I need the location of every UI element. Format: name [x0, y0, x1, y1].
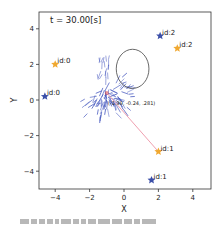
caption-text-block	[134, 219, 140, 224]
caption-text-block	[88, 219, 96, 224]
y-tick-label: 0	[30, 97, 34, 105]
x-axis-label: X	[121, 205, 127, 214]
caption-text-block	[73, 219, 79, 224]
x-tick-label: −2	[84, 194, 94, 202]
trajectory-plot: id:0id:1id:2id:0id:1id:2 −4−2024 −4−2024…	[0, 0, 223, 226]
caption-text-block	[47, 219, 53, 224]
range-ellipse	[116, 49, 149, 88]
marker-label: id:1	[160, 145, 173, 153]
caption-text-block	[39, 219, 45, 224]
marker-label: id:0	[57, 57, 70, 65]
y-tick-label: 4	[30, 25, 35, 33]
swarm-arrows	[80, 55, 135, 123]
caption-text-block	[31, 219, 37, 224]
caption-text-block	[55, 219, 59, 224]
y-axis-ticks: −4−2024	[24, 25, 39, 175]
marker-label: id:2	[179, 41, 192, 49]
marker-label: id:2	[162, 29, 175, 37]
x-tick-label: −4	[50, 194, 61, 202]
x-axis-ticks: −4−2024	[50, 189, 196, 202]
caption-text-block	[124, 219, 132, 224]
caption-text-block	[112, 219, 122, 224]
caption-text-block	[20, 219, 29, 224]
caption-text-block	[61, 219, 71, 224]
y-axis-label: Y	[10, 97, 19, 103]
x-tick-label: 4	[191, 194, 196, 202]
y-tick-label: −4	[24, 168, 35, 176]
time-annotation: t = 30.00[s]	[50, 15, 101, 25]
y-tick-label: 2	[30, 61, 34, 69]
x-tick-label: 2	[156, 194, 160, 202]
caption-text-block	[98, 219, 110, 224]
figure-caption	[20, 219, 196, 226]
marker-label: id:0	[47, 89, 60, 97]
caption-text-block	[142, 219, 156, 224]
caption-text-block	[81, 219, 86, 224]
x-tick-label: 0	[122, 194, 126, 202]
swarm-center-label: (-1.39, -0.24, .281)	[108, 100, 155, 106]
y-tick-label: −2	[24, 132, 34, 140]
marker-label: id:1	[154, 173, 167, 181]
